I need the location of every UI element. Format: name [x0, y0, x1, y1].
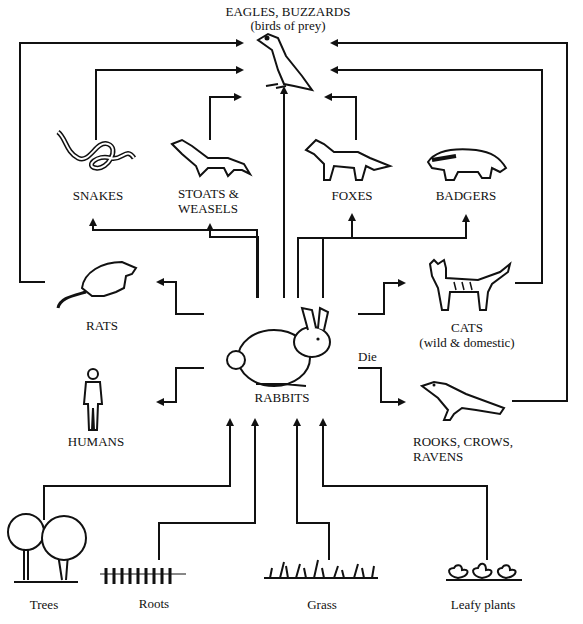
rabbits-label: RABBITS [232, 390, 332, 405]
fox-icon [304, 136, 394, 182]
crow-icon [420, 374, 508, 422]
human-icon [80, 368, 106, 432]
snakes-label: SNAKES [48, 188, 148, 203]
leafy-plants-icon [444, 560, 524, 582]
rooks-label: ROOKS, CROWS, [413, 434, 513, 449]
grass-label: Grass [282, 597, 362, 612]
rabbit-icon [226, 306, 338, 392]
cats-label: CATS [412, 320, 522, 335]
badgers-label: BADGERS [416, 188, 516, 203]
leafy-plants-label: Leafy plants [428, 597, 538, 612]
snake-icon [52, 128, 140, 180]
badger-icon [426, 144, 510, 184]
weasels-label: WEASELS [178, 201, 238, 216]
eagles-sublabel: (birds of prey) [183, 18, 393, 33]
stoat-icon [168, 136, 254, 180]
cat-icon [426, 258, 512, 314]
cats-sublabel: (wild & domestic) [402, 335, 532, 350]
humans-label: HUMANS [46, 434, 146, 449]
rats-label: RATS [52, 318, 152, 333]
trees-label: Trees [4, 597, 84, 612]
eagle-icon [250, 28, 320, 98]
die-edge-label: Die [358, 349, 377, 364]
trees-icon [4, 506, 90, 586]
grass-icon [262, 558, 380, 582]
eagles-label: EAGLES, BUZZARDS [183, 4, 393, 19]
foxes-label: FOXES [302, 188, 402, 203]
rat-icon [52, 258, 140, 310]
roots-icon [98, 566, 194, 586]
stoats-label: STOATS & [178, 186, 239, 201]
ravens-label: RAVENS [413, 449, 463, 464]
roots-label: Roots [114, 596, 194, 611]
